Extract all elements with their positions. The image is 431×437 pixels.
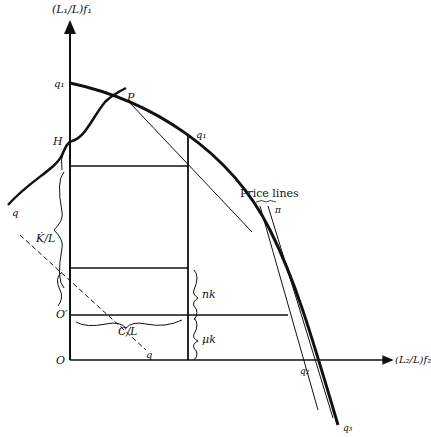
label-k-over-l: K̇/L: [36, 233, 55, 244]
price-line-1: [260, 206, 318, 410]
price-line-2: [268, 206, 333, 418]
label-o-prime: O′: [56, 309, 68, 320]
diagram-graphics: [0, 0, 431, 437]
x-axis-label: (L₂/L)f₂: [395, 355, 431, 365]
brace-nk: [194, 270, 199, 320]
brace-mu-k: [194, 318, 199, 360]
brace-price-lines: [256, 201, 276, 203]
label-q-bottom: q: [146, 350, 152, 360]
label-q-top: q₁: [54, 79, 64, 89]
label-p: P: [127, 92, 134, 103]
h-curve: [8, 88, 126, 205]
diagram: (L₁/L)f₁ (L₂/L)f₂ q₁ P H q₁ q₂ q₃ O O′ q…: [0, 0, 431, 437]
label-mu-k: μk: [202, 334, 216, 345]
label-q1: q₁: [196, 130, 206, 140]
label-h: H: [53, 136, 63, 147]
brace-k-over-l: [54, 172, 64, 288]
label-pi: π: [275, 206, 281, 215]
label-c-over-l: C/L: [118, 326, 137, 337]
price-lines-label: Price lines: [240, 188, 299, 199]
label-nk: nk: [202, 289, 216, 300]
label-q2: q₂: [300, 367, 309, 376]
y-axis-label: (L₁/L)f₁: [52, 4, 92, 15]
label-o: O: [56, 355, 65, 366]
tangent-line-p: [130, 103, 252, 232]
label-q3: q₃: [343, 424, 352, 433]
label-q-left: q: [12, 208, 18, 218]
